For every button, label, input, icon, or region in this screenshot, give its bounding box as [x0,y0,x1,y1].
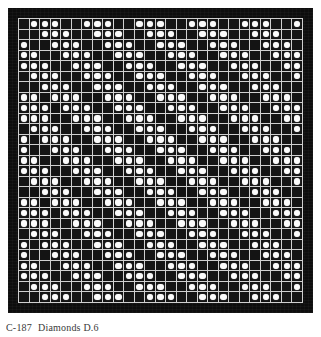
pattern-tile [166,292,176,302]
pattern-tile [271,282,281,292]
pattern-tile [240,187,250,197]
pattern-tile [61,240,71,250]
pattern-tile [250,240,260,250]
pattern-tile [219,156,229,166]
pattern-tile [208,250,218,260]
pattern-tile [240,114,250,124]
pattern-tile [114,72,124,82]
pattern-tile [40,19,50,29]
pattern-tile [19,145,29,155]
pattern-tile [177,93,187,103]
pattern-tile [72,135,82,145]
pattern-tile [93,124,103,134]
pattern-tile [229,282,239,292]
pattern-tile [135,187,145,197]
pattern-tile [250,114,260,124]
pattern-tile [114,187,124,197]
pattern-tile [82,124,92,134]
pattern-tile [271,271,281,281]
pattern-tile [61,124,71,134]
pattern-tile [198,145,208,155]
pattern-tile [135,19,145,29]
pattern-tile [208,114,218,124]
pattern-tile [261,219,271,229]
pattern-tile [240,156,250,166]
pattern-tile [124,292,134,302]
pattern-tile [61,135,71,145]
pattern-tile [93,19,103,29]
pattern-tile [72,114,82,124]
pattern-tile [229,250,239,260]
pattern-tile [61,177,71,187]
pattern-tile [124,103,134,113]
pattern-tile [282,261,292,271]
pattern-tile [166,166,176,176]
pattern-tile [282,229,292,239]
pattern-tile [30,103,40,113]
pattern-tile [271,30,281,40]
pattern-tile [51,166,61,176]
pattern-tile [261,51,271,61]
pattern-tile [177,240,187,250]
pattern-tile [103,61,113,71]
pattern-tile [187,229,197,239]
pattern-tile [166,82,176,92]
pattern-tile [156,72,166,82]
pattern-tile [145,292,155,302]
pattern-tile [166,145,176,155]
pattern-tile [40,156,50,166]
pattern-tile [61,82,71,92]
pattern-tile [187,156,197,166]
pattern-tile [61,156,71,166]
pattern-tile [145,261,155,271]
pattern-tile [156,229,166,239]
pattern-tile [156,156,166,166]
pattern-tile [261,124,271,134]
pattern-tile [282,30,292,40]
pattern-tile [61,51,71,61]
pattern-tile [166,30,176,40]
pattern-tile [19,198,29,208]
pattern-tile [250,156,260,166]
pattern-tile [177,103,187,113]
pattern-tile [219,261,229,271]
pattern-tile [240,198,250,208]
pattern-tile [135,166,145,176]
pattern-tile [40,51,50,61]
pattern-tile [114,166,124,176]
pattern-tile [19,240,29,250]
pattern-tile [198,82,208,92]
pattern-tile [30,177,40,187]
pattern-tile [30,292,40,302]
pattern-tile [124,208,134,218]
pattern-tile [145,156,155,166]
pattern-tile [261,82,271,92]
pattern-tile [282,198,292,208]
pattern-tile [187,135,197,145]
pattern-tile [271,187,281,197]
pattern-tile [240,292,250,302]
pattern-tile [114,135,124,145]
pattern-tile [187,114,197,124]
pattern-tile [271,40,281,50]
pattern-tile [145,250,155,260]
pattern-tile [103,135,113,145]
pattern-tile [30,208,40,218]
pattern-tile [250,51,260,61]
pattern-tile [166,124,176,134]
pattern-tile [124,250,134,260]
pattern-tile [219,166,229,176]
pattern-tile [61,61,71,71]
pattern-tile [156,250,166,260]
pattern-tile [135,135,145,145]
pattern-tile [19,114,29,124]
pattern-tile [292,219,302,229]
pattern-tile [229,72,239,82]
pattern-tile [145,240,155,250]
pattern-tile [261,187,271,197]
pattern-tile [72,61,82,71]
pattern-tile [145,187,155,197]
pattern-tile [61,145,71,155]
pattern-tile [198,208,208,218]
pattern-tile [72,19,82,29]
